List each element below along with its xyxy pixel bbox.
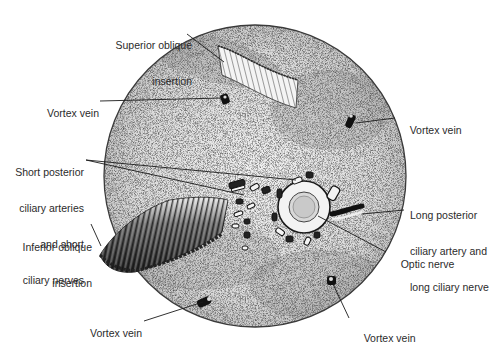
label-optic-nerve: Optic nerve [389, 246, 454, 282]
leader-inferior-oblique [91, 224, 101, 246]
label-text: Vortex vein [47, 107, 99, 119]
label-vortex-vein-lower-left: Vortex vein [70, 315, 142, 346]
label-superior-oblique-insertion: Superior oblique insertion [112, 15, 192, 111]
label-line: long ciliary nerve [410, 281, 489, 293]
label-line: insertion [112, 75, 192, 87]
eyeball-posterior-diagram: Superior oblique insertion Vortex vein V… [0, 0, 494, 346]
label-vortex-vein-upper-right: Vortex vein [398, 112, 462, 148]
label-inferior-oblique-insertion: Inferior oblique insertion [10, 217, 92, 313]
label-text: Vortex vein [364, 332, 416, 344]
label-vortex-vein-lower-right: Vortex vein [352, 320, 416, 346]
label-line: Short posterior [4, 166, 84, 178]
optic-nerve [278, 181, 330, 233]
label-line: Long posterior [410, 209, 489, 221]
vortex-vein-lower-right [327, 276, 336, 285]
label-line: insertion [10, 277, 92, 289]
label-line: Superior oblique [112, 39, 192, 51]
label-vortex-vein-upper-left: Vortex vein [30, 95, 99, 131]
label-line: Inferior oblique [10, 241, 92, 253]
label-text: Vortex vein [90, 327, 142, 339]
label-text: Vortex vein [410, 124, 462, 136]
label-text: Optic nerve [401, 258, 455, 270]
label-line: ciliary arteries [4, 202, 84, 214]
